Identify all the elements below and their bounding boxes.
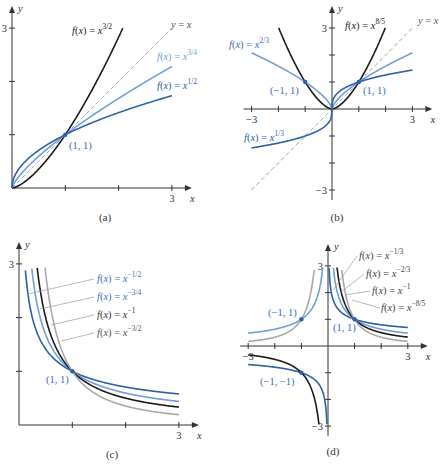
point-label: (1, 1) xyxy=(363,85,386,97)
curve-label: f(x) = x−1 xyxy=(372,282,411,297)
point-marker xyxy=(303,80,307,84)
panel-c: xy33(c)f(x) = x−1/2f(x) = x−3/4f(x) = x−… xyxy=(9,239,202,461)
curve-f-x-x-2-3- xyxy=(248,268,323,333)
leader-line xyxy=(61,333,94,341)
point-marker xyxy=(63,133,67,137)
curve-label: f(x) = x−8/5 xyxy=(381,299,426,314)
panel-a: xy33(a)f(x) = x3/2y = xf(x) = x3/4f(x) =… xyxy=(2,3,198,224)
x-tick-label: −3 xyxy=(246,114,257,125)
curve-label: f(x) = x8/5 xyxy=(345,17,385,32)
x-axis-arrow-icon xyxy=(185,185,192,191)
x-axis-label: x xyxy=(425,351,431,362)
x-axis-arrow-icon xyxy=(192,422,199,428)
x-axis-label: x xyxy=(429,114,435,125)
curve-label: f(x) = x−3/2 xyxy=(97,324,142,339)
curve-label: f(x) = x3/4 xyxy=(157,48,197,63)
curve-label: f(x) = x−1 xyxy=(97,306,136,321)
curve-f-x-x-3-4- xyxy=(12,67,172,189)
point-label: (−1, 1) xyxy=(268,307,297,319)
leader-line xyxy=(333,256,357,290)
x-tick-label: 3 xyxy=(176,430,181,441)
curve-label: f(x) = x3/2 xyxy=(72,22,112,37)
y-axis-arrow-icon xyxy=(325,244,331,251)
point-marker xyxy=(357,80,361,84)
x-tick-label: 3 xyxy=(410,114,415,125)
curve-f-x-x-1-2- xyxy=(12,96,172,188)
point-label: (1, 1) xyxy=(333,322,356,334)
panel-b: xy−33−33(b)f(x) = x8/5y = xf(x) = x2/3f(… xyxy=(229,3,439,224)
x-axis-label: x xyxy=(189,193,195,204)
curve-f-x-x-8-5- xyxy=(248,270,314,341)
leader-line xyxy=(51,315,94,325)
curve-label: f(x) = x2/3 xyxy=(229,36,269,51)
x-axis-label: x xyxy=(196,430,202,441)
x-axis-arrow-icon xyxy=(421,343,428,349)
panel-caption: (c) xyxy=(106,448,119,461)
point-marker xyxy=(352,317,356,321)
curve-label: f(x) = x1/2 xyxy=(157,77,197,92)
leader-line xyxy=(345,291,370,295)
x-tick-label: −3 xyxy=(243,351,254,362)
y-axis-arrow-icon xyxy=(9,6,15,13)
curve-label: f(x) = x−1/2 xyxy=(97,270,142,285)
x-tick-label: 3 xyxy=(405,351,410,362)
line-label-y-equals-x: y = x xyxy=(170,19,192,30)
y-tick-label: −3 xyxy=(312,421,323,432)
curve-f-x-x-1-3- xyxy=(248,365,327,425)
y-tick-label: −3 xyxy=(316,185,327,196)
y-tick-label: 3 xyxy=(2,23,7,34)
curve-label: f(x) = x1/3 xyxy=(244,129,284,144)
curve-f-x-x-3-2- xyxy=(12,28,123,188)
curve-y-x xyxy=(12,28,172,188)
curve-label: f(x) = x−3/4 xyxy=(97,288,142,303)
y-axis-label: y xyxy=(17,3,23,14)
y-axis-arrow-icon xyxy=(329,6,335,13)
panel-caption: (b) xyxy=(331,211,344,224)
panel-caption: (a) xyxy=(99,211,112,224)
power-function-figure: xy33(a)f(x) = x3/2y = xf(x) = x3/4f(x) =… xyxy=(0,0,447,467)
y-axis-label: y xyxy=(333,241,339,252)
leader-line xyxy=(352,300,380,308)
panel-caption: (d) xyxy=(327,445,340,458)
point-marker xyxy=(299,371,303,375)
y-tick-label: 3 xyxy=(322,23,327,34)
y-axis-label: y xyxy=(24,239,30,250)
leader-line xyxy=(40,297,94,309)
x-axis-arrow-icon xyxy=(425,106,432,112)
y-axis-label: y xyxy=(337,3,343,14)
panel-d: xy−33−33(d)f(x) = x−1/3f(x) = x−2/3f(x) … xyxy=(240,241,431,458)
leader-line xyxy=(28,279,94,294)
point-marker xyxy=(70,369,74,373)
y-tick-label: 3 xyxy=(9,259,14,270)
curve-label: f(x) = x−2/3 xyxy=(366,265,411,280)
point-label: (1, 1) xyxy=(46,374,69,386)
point-label: (−1, 1) xyxy=(270,85,299,97)
x-tick-label: 3 xyxy=(169,193,174,204)
point-marker xyxy=(299,317,303,321)
point-label: (1, 1) xyxy=(69,140,92,152)
line-label-y-equals-x: y = x xyxy=(417,15,439,26)
curve-label: f(x) = x−1/3 xyxy=(359,247,404,262)
y-axis-arrow-icon xyxy=(16,242,22,249)
point-label: (−1, −1) xyxy=(260,376,295,388)
